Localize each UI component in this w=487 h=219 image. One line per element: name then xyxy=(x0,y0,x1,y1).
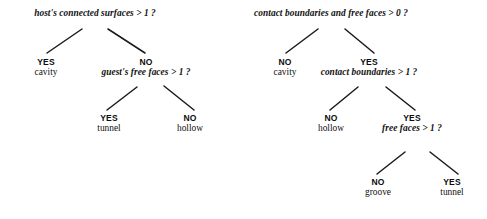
node-host-yes-cavity: YES cavity xyxy=(35,58,58,77)
node-contact-root: contact boundaries and free faces > 0 ? xyxy=(254,8,408,18)
question-label: contact boundaries and free faces > 0 ? xyxy=(254,8,408,18)
node-bounds-no-hollow: NO hollow xyxy=(318,114,344,133)
answer-label: YES xyxy=(440,178,463,187)
leaf-label: hollow xyxy=(177,123,203,133)
leaf-label: cavity xyxy=(35,67,58,77)
answer-label: NO xyxy=(365,178,391,187)
leaf-label: cavity xyxy=(274,67,297,77)
tree-edge xyxy=(107,87,137,110)
node-contact-yes-bounds: YES contact boundaries > 1 ? xyxy=(321,58,418,77)
tree-edge xyxy=(108,29,145,53)
answer-label: NO xyxy=(318,114,344,123)
node-host-no-guest: NO guest's free faces > 1 ? xyxy=(101,58,190,77)
question-label: host's connected surfaces > 1 ? xyxy=(34,8,156,18)
tree-edge xyxy=(377,152,405,174)
question-label: free faces > 1 ? xyxy=(382,123,442,133)
tree-edge xyxy=(286,29,318,53)
decision-tree-diagram: host's connected surfaces > 1 ? YES cavi… xyxy=(0,0,487,219)
leaf-label: groove xyxy=(365,187,391,197)
leaf-label: tunnel xyxy=(440,187,463,197)
tree-edge xyxy=(330,87,358,110)
edge-lines xyxy=(47,29,458,174)
question-label: guest's free faces > 1 ? xyxy=(101,67,190,77)
leaf-label: tunnel xyxy=(97,123,120,133)
answer-label: NO xyxy=(101,58,190,67)
node-bounds-yes-faces: YES free faces > 1 ? xyxy=(382,114,442,133)
answer-label: YES xyxy=(382,114,442,123)
leaf-label: hollow xyxy=(318,123,344,133)
node-faces-no-groove: NO groove xyxy=(365,178,391,197)
question-label: contact boundaries > 1 ? xyxy=(321,67,418,77)
answer-label: YES xyxy=(97,114,120,123)
answer-label: NO xyxy=(177,114,203,123)
answer-label: NO xyxy=(274,58,297,67)
tree-edge xyxy=(386,87,415,110)
node-faces-yes-tunnel: YES tunnel xyxy=(440,178,463,197)
edge-layer xyxy=(0,0,487,219)
tree-edge xyxy=(47,29,82,53)
tree-edge xyxy=(345,29,374,53)
answer-label: YES xyxy=(35,58,58,67)
node-host-root: host's connected surfaces > 1 ? xyxy=(34,8,156,18)
node-contact-no-cavity: NO cavity xyxy=(274,58,297,77)
node-guest-no-hollow: NO hollow xyxy=(177,114,203,133)
answer-label: YES xyxy=(321,58,418,67)
tree-edge xyxy=(430,152,458,174)
tree-edge xyxy=(164,86,194,110)
node-guest-yes-tunnel: YES tunnel xyxy=(97,114,120,133)
